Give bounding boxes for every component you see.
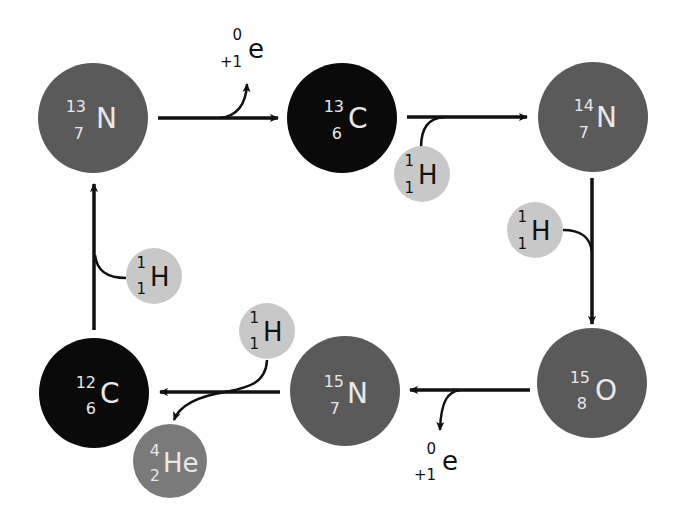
mass-number: 13 — [66, 97, 86, 116]
atomic-number: 7 — [74, 124, 84, 143]
proton-n15-to-c12: 1 1 H — [239, 303, 295, 359]
atomic-number: 6 — [332, 124, 342, 143]
positron-bottom: 0 +1 e — [414, 440, 458, 484]
arrow-n15-to-c12 — [160, 360, 280, 420]
element-symbol: N — [347, 377, 368, 410]
mass-number: 1 — [249, 309, 259, 327]
proton-n14-to-o15: 1 1 H — [507, 202, 563, 258]
atomic-number: 7 — [330, 399, 340, 418]
nucleus-oxygen-15: 15 8 O — [537, 328, 647, 438]
nucleus-carbon-13: 13 6 C — [287, 63, 397, 173]
arrow-n13-to-c13 — [158, 84, 278, 118]
positron-charge: +1 — [220, 53, 242, 71]
element-symbol: H — [531, 216, 551, 246]
element-symbol: C — [100, 377, 120, 410]
element-symbol: H — [150, 262, 170, 292]
element-symbol: H — [418, 160, 438, 190]
mass-number: 15 — [570, 368, 590, 387]
atomic-number: 7 — [579, 123, 589, 142]
nucleus-carbon-12: 12 6 C — [39, 338, 149, 448]
arrow-n14-to-o15 — [563, 178, 592, 324]
positron-mass: 0 — [232, 26, 242, 44]
mass-number: 1 — [136, 254, 146, 272]
atomic-number: 1 — [404, 179, 414, 197]
element-symbol: O — [595, 374, 617, 407]
positron-top: 0 +1 e — [220, 26, 264, 71]
mass-number: 12 — [76, 373, 96, 392]
atomic-number: 1 — [136, 280, 146, 298]
arrow-o15-to-n15 — [410, 390, 530, 430]
element-symbol: N — [596, 101, 617, 134]
element-symbol: He — [163, 448, 199, 478]
atomic-number: 2 — [150, 466, 160, 485]
nucleus-nitrogen-15: 15 7 N — [290, 336, 400, 446]
proton-c13-to-n14: 1 1 H — [394, 146, 450, 202]
element-symbol: C — [348, 102, 368, 135]
mass-number: 4 — [150, 441, 160, 460]
element-symbol: H — [263, 317, 283, 347]
positron-mass: 0 — [426, 440, 436, 458]
atomic-number: 1 — [249, 335, 259, 353]
nucleus-helium-4: 4 2 He — [133, 424, 207, 498]
atomic-number: 6 — [86, 399, 96, 418]
cno-cycle-diagram: 13 7 N 13 6 C 14 7 N 15 8 O 15 7 N 12 6 … — [0, 0, 681, 526]
mass-number: 14 — [574, 96, 594, 115]
mass-number: 1 — [404, 152, 414, 170]
proton-c12-to-n13: 1 1 H — [126, 248, 182, 304]
mass-number: 13 — [324, 97, 344, 116]
positron-symbol: e — [442, 446, 458, 476]
positron-symbol: e — [248, 34, 264, 64]
mass-number: 1 — [517, 208, 527, 226]
arrow-c13-to-n14 — [407, 117, 527, 148]
atomic-number: 1 — [517, 235, 527, 253]
nucleus-nitrogen-13: 13 7 N — [38, 63, 148, 173]
atomic-number: 8 — [577, 394, 587, 413]
arrow-c12-to-n13 — [94, 184, 126, 330]
nucleus-nitrogen-14: 14 7 N — [538, 62, 648, 172]
mass-number: 15 — [324, 372, 344, 391]
element-symbol: N — [96, 102, 117, 135]
positron-charge: +1 — [414, 466, 436, 484]
